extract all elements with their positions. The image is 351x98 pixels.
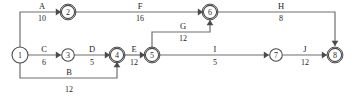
node-8[interactable]: 8 — [327, 47, 343, 63]
activity-duration-i: 5 — [213, 58, 217, 67]
node-2[interactable]: 2 — [60, 4, 76, 20]
arrowhead-icon-g — [207, 20, 214, 25]
node-1[interactable]: 1 — [12, 47, 28, 63]
node-label-1: 1 — [18, 51, 22, 60]
activity-duration-e: 12 — [130, 58, 138, 67]
network-diagram-canvas: 12345678 A10B12C6D5E12F16G12H8I5J12 — [0, 0, 351, 98]
network-diagram: 12345678 A10B12C6D5E12F16G12H8I5J12 — [0, 0, 351, 98]
node-label-6: 6 — [208, 8, 212, 17]
node-label-4: 4 — [115, 51, 119, 60]
activity-name-c: C — [41, 44, 47, 54]
activity-duration-a: 10 — [38, 14, 46, 23]
arrowhead-icon-i — [264, 52, 269, 59]
arrowhead-icon-j — [322, 52, 327, 59]
activity-name-f: F — [138, 1, 143, 11]
activity-duration-c: 6 — [42, 58, 46, 67]
edge-labels-layer: A10B12C6D5E12F16G12H8I5J12 — [38, 1, 309, 94]
node-label-3: 3 — [66, 51, 70, 60]
node-5[interactable]: 5 — [144, 47, 160, 63]
node-4[interactable]: 4 — [109, 47, 125, 63]
node-3[interactable]: 3 — [62, 49, 75, 62]
activity-name-h: H — [278, 1, 284, 11]
activity-name-d: D — [89, 44, 95, 54]
node-label-5: 5 — [150, 51, 154, 60]
arrowhead-icon-h — [332, 41, 339, 46]
nodes-layer: 12345678 — [12, 4, 343, 63]
arrowheads-layer — [56, 9, 339, 68]
activity-duration-h: 8 — [279, 14, 283, 23]
edge-h — [217, 12, 335, 46]
activity-name-j: J — [303, 44, 307, 54]
activity-duration-f: 16 — [136, 14, 144, 23]
activity-duration-g: 12 — [179, 34, 187, 43]
activity-name-i: I — [214, 44, 217, 54]
node-7[interactable]: 7 — [270, 49, 283, 62]
activity-name-a: A — [39, 1, 46, 11]
node-6[interactable]: 6 — [202, 4, 218, 20]
activity-duration-j: 12 — [301, 58, 309, 67]
activity-name-b: B — [66, 67, 72, 77]
activity-duration-b: 12 — [65, 85, 73, 94]
node-label-2: 2 — [66, 8, 70, 17]
activity-name-e: E — [131, 44, 136, 54]
activity-name-g: G — [180, 21, 186, 31]
node-label-7: 7 — [274, 51, 278, 60]
node-label-8: 8 — [333, 51, 337, 60]
arrowhead-icon-c — [56, 52, 61, 59]
activity-duration-d: 5 — [90, 58, 94, 67]
